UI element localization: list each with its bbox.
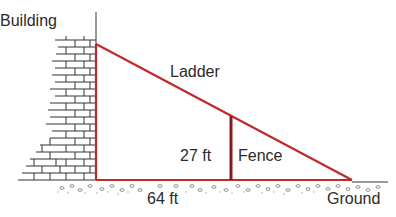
fence-height-label: 27 ft bbox=[180, 147, 211, 165]
base-distance-label: 64 ft bbox=[147, 190, 178, 208]
ladder-line bbox=[96, 44, 352, 180]
ground-label: Ground bbox=[327, 190, 380, 208]
fence-label: Fence bbox=[238, 147, 282, 165]
ground-speckle bbox=[57, 191, 314, 194]
ladder-label: Ladder bbox=[170, 63, 220, 81]
diagram-graphic bbox=[0, 0, 396, 217]
building-label: Building bbox=[0, 12, 57, 30]
ladder-fence-diagram: Building Ladder 27 ft Fence 64 ft Ground bbox=[0, 0, 396, 217]
brick-wall bbox=[18, 36, 96, 180]
